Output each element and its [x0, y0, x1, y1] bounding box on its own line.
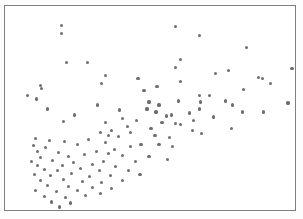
data-point [49, 174, 52, 177]
data-point [107, 134, 110, 137]
data-point [26, 94, 29, 97]
data-point [261, 77, 264, 80]
data-point [199, 100, 202, 103]
data-points-layer [5, 6, 295, 210]
data-point [62, 178, 65, 181]
data-point [98, 169, 101, 172]
data-point [170, 113, 173, 116]
data-point [129, 145, 132, 148]
scatter-plot-figure [0, 0, 303, 219]
data-point [60, 24, 63, 27]
data-point [107, 152, 110, 155]
data-point [104, 74, 107, 77]
data-point [95, 150, 98, 153]
data-point [40, 87, 43, 90]
data-point [60, 32, 63, 35]
data-point [208, 94, 211, 97]
data-point [110, 187, 113, 190]
data-point [149, 127, 152, 130]
data-point [57, 151, 60, 154]
plot-frame [4, 5, 296, 211]
data-point [174, 66, 177, 69]
data-point [117, 135, 120, 138]
data-point [88, 175, 91, 178]
data-point [46, 107, 49, 110]
data-point [171, 145, 174, 148]
data-point [230, 127, 233, 130]
data-point [157, 143, 160, 146]
data-point [286, 101, 289, 104]
data-point [79, 167, 82, 170]
data-point [69, 201, 72, 204]
data-point [121, 179, 124, 182]
data-point [100, 82, 103, 85]
data-point [46, 184, 49, 187]
data-point [257, 76, 260, 79]
data-point [168, 136, 171, 139]
data-point [36, 150, 39, 153]
data-point [51, 159, 54, 162]
data-point [104, 121, 107, 124]
data-point [198, 94, 201, 97]
data-point [56, 169, 59, 172]
data-point [179, 123, 182, 126]
data-point [64, 196, 67, 199]
data-point [198, 107, 201, 110]
data-point [147, 155, 150, 158]
data-point [227, 69, 230, 72]
data-point [174, 122, 177, 125]
data-point [91, 163, 94, 166]
data-point [110, 129, 113, 132]
data-point [127, 169, 130, 172]
data-point [36, 164, 39, 167]
data-point [62, 120, 65, 123]
data-point [67, 155, 70, 158]
data-point [114, 165, 117, 168]
data-point [142, 89, 145, 92]
data-point [138, 173, 141, 176]
data-point [104, 141, 107, 144]
data-point [100, 181, 103, 184]
data-point [121, 117, 124, 120]
data-point [73, 113, 76, 116]
data-point [174, 25, 177, 28]
data-point [179, 80, 182, 83]
data-point [155, 85, 158, 88]
data-point [81, 180, 84, 183]
data-point [43, 168, 46, 171]
data-point [72, 161, 75, 164]
data-point [177, 99, 180, 102]
data-point [179, 58, 182, 61]
data-point [139, 143, 142, 146]
data-point [48, 139, 51, 142]
data-point [134, 160, 137, 163]
data-point [192, 119, 195, 122]
data-point [65, 61, 68, 64]
data-point [262, 110, 265, 113]
data-point [126, 125, 129, 128]
data-point [44, 146, 47, 149]
data-point [50, 200, 53, 203]
data-point [70, 172, 73, 175]
data-point [224, 99, 227, 102]
data-point [96, 103, 99, 106]
data-point [34, 189, 37, 192]
data-point [118, 108, 121, 111]
data-point [113, 148, 116, 151]
data-point [109, 174, 112, 177]
data-point [67, 185, 70, 188]
data-point [241, 110, 244, 113]
data-point [212, 115, 215, 118]
data-point [61, 164, 64, 167]
data-point [129, 131, 132, 134]
data-point [102, 160, 105, 163]
data-point [135, 119, 138, 122]
data-point [290, 67, 293, 70]
data-point [39, 156, 42, 159]
data-point [200, 132, 203, 135]
data-point [153, 134, 156, 137]
data-point [83, 153, 86, 156]
data-point [33, 173, 36, 176]
data-point [43, 195, 46, 198]
data-point [32, 144, 35, 147]
